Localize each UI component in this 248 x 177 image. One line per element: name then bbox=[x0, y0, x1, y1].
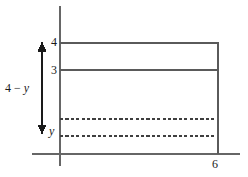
axis-label-3: 3 bbox=[51, 64, 57, 76]
measurement-arrow bbox=[38, 41, 47, 135]
axis-label-y: y bbox=[49, 125, 54, 137]
expr-term-y: y bbox=[24, 81, 29, 95]
measurement-arrow-head-down bbox=[38, 125, 47, 136]
measurement-label-4-minus-y: 4 − y bbox=[5, 82, 29, 94]
geometry-diagram: 4 3 y 4 − y 6 bbox=[0, 0, 248, 177]
expr-operator: − bbox=[14, 81, 21, 95]
measurement-arrow-head-up bbox=[38, 41, 47, 52]
axis-label-4: 4 bbox=[51, 36, 57, 48]
axis-label-6: 6 bbox=[212, 158, 218, 170]
diagram-canvas bbox=[0, 0, 248, 177]
